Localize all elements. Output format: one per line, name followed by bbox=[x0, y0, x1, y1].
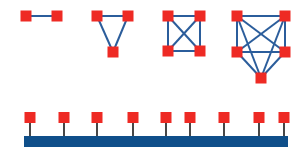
bus-topology bbox=[24, 112, 290, 147]
bus-node bbox=[25, 112, 36, 123]
network-node bbox=[92, 11, 103, 22]
bus-backbone bbox=[24, 136, 288, 147]
mesh-topologies bbox=[21, 11, 291, 84]
network-node bbox=[21, 11, 32, 22]
network-node bbox=[123, 11, 134, 22]
network-node bbox=[108, 47, 119, 58]
network-node bbox=[232, 47, 243, 58]
network-node bbox=[280, 47, 291, 58]
network-node bbox=[52, 11, 63, 22]
mesh-3-nodes bbox=[92, 11, 134, 58]
network-node bbox=[195, 46, 206, 57]
topology-diagram bbox=[0, 0, 306, 152]
network-node bbox=[280, 11, 291, 22]
mesh-4-nodes bbox=[163, 11, 206, 57]
bus-node bbox=[128, 112, 139, 123]
network-node bbox=[232, 11, 243, 22]
bus-node bbox=[219, 112, 230, 123]
bus-node bbox=[59, 112, 70, 123]
bus-node bbox=[254, 112, 265, 123]
network-node bbox=[163, 11, 174, 22]
network-node bbox=[195, 11, 206, 22]
bus-node bbox=[279, 112, 290, 123]
bus-node bbox=[161, 112, 172, 123]
bus-node bbox=[92, 112, 103, 123]
mesh-2-nodes bbox=[21, 11, 63, 22]
bus-node bbox=[185, 112, 196, 123]
network-node bbox=[256, 73, 267, 84]
network-node bbox=[163, 46, 174, 57]
mesh-5-nodes bbox=[232, 11, 291, 84]
